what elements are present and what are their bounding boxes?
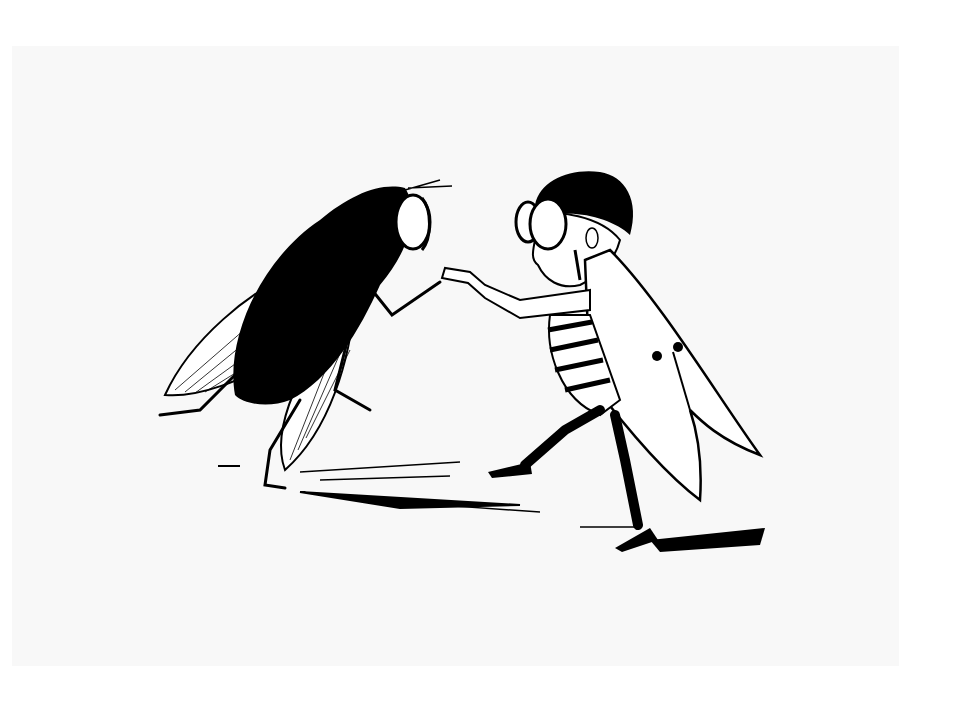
ground-shadow-right xyxy=(580,527,765,552)
illustration xyxy=(0,0,957,705)
dressed-fly xyxy=(442,171,760,552)
dark-fly xyxy=(160,180,452,488)
